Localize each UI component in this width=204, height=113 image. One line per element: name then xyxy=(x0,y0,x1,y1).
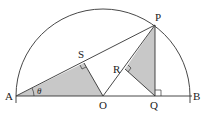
label-R: R xyxy=(113,63,121,75)
geometry-diagram: A B O P Q S R θ xyxy=(0,0,204,113)
label-theta: θ xyxy=(37,86,42,96)
label-Q: Q xyxy=(150,99,158,111)
shaded-triangle-ASO xyxy=(16,63,103,96)
label-P: P xyxy=(155,11,161,23)
label-B: B xyxy=(193,90,200,102)
label-S: S xyxy=(78,48,84,60)
label-O: O xyxy=(99,99,107,111)
label-A: A xyxy=(5,90,13,102)
right-angle-mark-Q xyxy=(155,90,161,96)
